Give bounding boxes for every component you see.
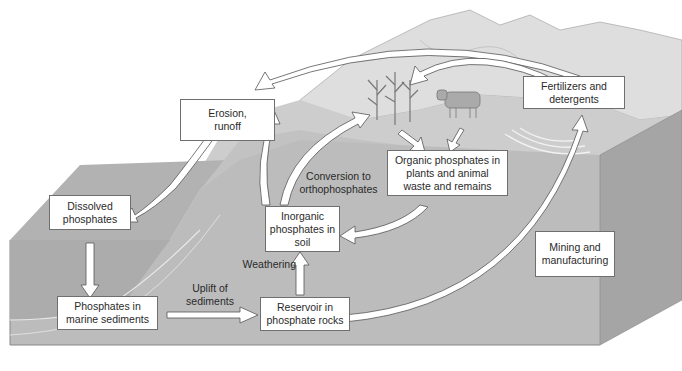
erosion-runoff-box: Erosion, runoff [180, 99, 275, 141]
phosphate-rocks-box: Reservoir in phosphate rocks [260, 297, 350, 331]
marine-sediments-label: Phosphates in marine sediments [63, 300, 153, 326]
erosion-runoff-label: Erosion, runoff [198, 107, 258, 133]
conversion-label: Conversion to orthophosphates [291, 170, 386, 196]
phosphorus-cycle-diagram: Erosion, runoff Fertilizers and detergen… [0, 0, 682, 371]
dissolved-phosphates-label: Dissolved phosphates [55, 200, 125, 226]
weathering-label: Weathering [232, 258, 296, 271]
marine-sediments-box: Phosphates in marine sediments [57, 296, 158, 330]
fertilizers-detergents-label: Fertilizers and detergents [527, 80, 622, 106]
organic-phosphates-label: Organic phosphates in plants and animal … [392, 154, 504, 193]
uplift-label: Uplift of sediments [180, 282, 240, 308]
organic-phosphates-box: Organic phosphates in plants and animal … [387, 150, 508, 196]
inorganic-phosphates-label: Inorganic phosphates in soil [268, 210, 338, 249]
fertilizers-detergents-box: Fertilizers and detergents [523, 76, 625, 109]
mining-manufacturing-label: Mining and manufacturing [537, 241, 613, 267]
dissolved-phosphates-box: Dissolved phosphates [49, 195, 131, 230]
phosphate-rocks-label: Reservoir in phosphate rocks [262, 301, 348, 327]
inorganic-phosphates-box: Inorganic phosphates in soil [265, 206, 340, 252]
mining-manufacturing-box: Mining and manufacturing [535, 231, 615, 277]
